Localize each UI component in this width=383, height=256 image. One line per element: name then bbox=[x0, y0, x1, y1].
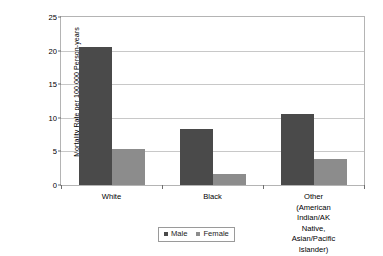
legend-item-male: Male bbox=[164, 229, 187, 239]
legend-label: Female bbox=[203, 229, 228, 239]
chart-legend: MaleFemale bbox=[158, 227, 235, 242]
bar-chart-figure: Mortality Rate per 100,000 Person-years … bbox=[0, 0, 383, 256]
y-tick-mark bbox=[58, 17, 61, 18]
x-tick-mark bbox=[263, 185, 264, 189]
y-tick-label: 15 bbox=[49, 80, 57, 89]
bar-male-0 bbox=[79, 47, 112, 185]
x-axis-category-label-line: White bbox=[102, 192, 121, 203]
x-tick-mark bbox=[162, 185, 163, 189]
bar-male-1 bbox=[180, 129, 213, 185]
x-axis-category-label: White bbox=[102, 192, 121, 203]
y-tick-label: 25 bbox=[49, 13, 57, 22]
legend-item-female: Female bbox=[196, 229, 228, 239]
bar-female-2 bbox=[314, 159, 347, 185]
legend-swatch-icon bbox=[196, 232, 200, 236]
y-tick-label: 0 bbox=[53, 181, 57, 190]
x-axis-category-label-line: Native, Asian/Pacific Islander) bbox=[288, 224, 339, 256]
y-tick-label: 10 bbox=[49, 113, 57, 122]
bar-female-0 bbox=[112, 149, 145, 185]
legend-label: Male bbox=[171, 229, 187, 239]
plot-area: Mortality Rate per 100,000 Person-years … bbox=[60, 16, 365, 186]
legend-swatch-icon bbox=[164, 232, 168, 236]
y-tick-label: 5 bbox=[53, 147, 57, 156]
bar-male-2 bbox=[281, 114, 314, 185]
x-tick-mark bbox=[61, 185, 62, 189]
x-axis-category-label: Black bbox=[203, 192, 222, 203]
bar-female-1 bbox=[213, 174, 246, 185]
x-axis-category-label-line: Black bbox=[203, 192, 222, 203]
x-tick-mark bbox=[364, 185, 365, 189]
x-axis-category-label: Other (American Indian/AKNative, Asian/P… bbox=[288, 192, 339, 255]
x-axis-category-label-line: Other (American Indian/AK bbox=[288, 192, 339, 224]
y-tick-label: 20 bbox=[49, 46, 57, 55]
